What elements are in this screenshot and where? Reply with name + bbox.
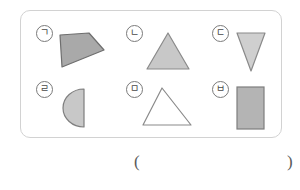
shape-rectangle	[234, 84, 268, 132]
figure-label-digeut: ㄷ	[212, 25, 229, 42]
figure-label-giyeok: ㄱ	[36, 25, 53, 42]
figure-cell-giyeok[interactable]: ㄱ	[21, 11, 108, 75]
answer-close-paren: )	[287, 150, 293, 174]
shape-triangle-down	[234, 30, 268, 74]
figure-cell-digeut[interactable]: ㄷ	[196, 11, 283, 75]
figure-label-bieup: ㅂ	[212, 81, 229, 98]
shape-quadrilateral	[57, 31, 107, 69]
shape-triangle-up	[144, 30, 192, 72]
figure-cell-bieup[interactable]: ㅂ	[196, 75, 283, 138]
figure-cell-mieum[interactable]: ㅁ	[108, 75, 196, 138]
answer-blank-row[interactable]: ( )	[0, 150, 300, 180]
shape-triangle-outline	[140, 85, 194, 129]
shape-figure-panel: ㄱ ㄴ ㄷ	[20, 10, 282, 138]
answer-open-paren: (	[134, 150, 140, 174]
figure-label-rieul: ㄹ	[36, 81, 53, 98]
figure-label-nieun: ㄴ	[126, 25, 143, 42]
figure-cell-nieun[interactable]: ㄴ	[108, 11, 196, 75]
figure-cell-rieul[interactable]: ㄹ	[21, 75, 108, 138]
shape-semicircle	[59, 85, 89, 131]
worksheet: ㄱ ㄴ ㄷ	[0, 0, 300, 190]
